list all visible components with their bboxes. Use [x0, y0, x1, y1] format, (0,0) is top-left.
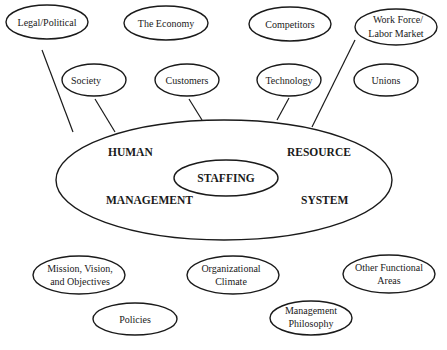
node-label: Customers — [166, 75, 209, 86]
node-label: Policies — [119, 314, 151, 325]
connector-society — [95, 99, 115, 132]
node-staffing: STAFFING — [174, 160, 278, 196]
node-label-line-1: Other Functional — [355, 262, 423, 273]
node-label: Technology — [265, 75, 312, 86]
staffing-hrms-diagram: Legal/Political The Economy Competitors … — [0, 0, 447, 350]
node-label-line-1: Mission, Vision, — [47, 263, 113, 274]
connector-legal — [42, 50, 73, 132]
node-organizational-climate: Organizational Climate — [187, 256, 279, 294]
node-label: The Economy — [138, 18, 194, 29]
node-label-line-2: Philosophy — [288, 318, 333, 329]
node-label: Unions — [372, 75, 401, 86]
connector-workforce — [312, 40, 355, 127]
node-label-line-1: Work Force/ — [373, 14, 423, 25]
node-label-line-2: and Objectives — [50, 276, 110, 287]
node-the-economy: The Economy — [124, 6, 208, 40]
label-system: SYSTEM — [301, 194, 348, 206]
node-unions: Unions — [354, 64, 418, 96]
node-label: Society — [71, 75, 101, 86]
label-management: MANAGEMENT — [106, 194, 193, 206]
node-society: Society — [62, 64, 126, 96]
node-label-line-1: Organizational — [201, 263, 260, 274]
node-customers: Customers — [155, 64, 219, 96]
node-mission-vision-objectives: Mission, Vision, and Objectives — [33, 256, 125, 294]
connector-customers — [189, 99, 202, 120]
label-staffing: STAFFING — [197, 172, 254, 184]
node-label-line-2: Labor Market — [368, 28, 423, 39]
label-human: HUMAN — [108, 146, 153, 158]
node-other-functional-areas: Other Functional Areas — [343, 255, 435, 293]
connector-technology — [277, 98, 289, 120]
node-policies: Policies — [93, 303, 177, 335]
node-label-line-1: Management — [285, 305, 337, 316]
node-competitors: Competitors — [249, 7, 331, 41]
label-resource: RESOURCE — [287, 146, 351, 158]
ellipse-shape — [343, 255, 435, 293]
node-label-line-2: Areas — [377, 275, 400, 286]
node-work-force-labor-market: Work Force/ Labor Market — [355, 9, 437, 45]
node-label-line-2: Climate — [215, 276, 247, 287]
ellipse-shape — [33, 256, 125, 294]
node-label: Competitors — [265, 19, 315, 30]
node-management-philosophy: Management Philosophy — [270, 301, 352, 335]
ellipse-shape — [187, 256, 279, 294]
node-label: Legal/Political — [18, 17, 77, 28]
node-legal-political: Legal/Political — [6, 5, 88, 39]
node-technology: Technology — [257, 64, 321, 96]
